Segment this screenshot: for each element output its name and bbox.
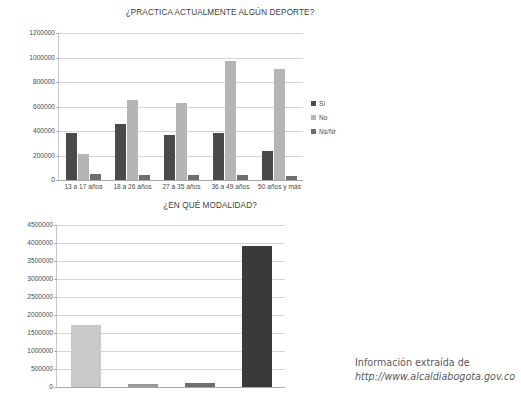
bar [115,124,126,180]
plot-area-practica-deporte: 0200000400000600000800000100000012000001… [58,33,303,180]
legend-practica-deporte: SíNoNs/Nr [311,96,336,138]
y-tick-mark [56,82,59,83]
bar [127,100,138,180]
y-axis-tick-label: 1000000 [27,348,53,355]
gridline [59,33,303,34]
legend-item-label: Ns/Nr [319,128,336,135]
chart-modalidad: ¿EN QUÉ MODALIDAD? 050000010000001500000… [0,198,400,404]
legend-item-label: Sí [319,100,325,107]
y-axis-tick-label: 3000000 [27,276,53,283]
y-tick-mark [54,297,57,298]
gridline [57,243,285,244]
y-tick-mark [56,156,59,157]
legend-item[interactable]: Ns/Nr [311,124,336,138]
gridline [59,58,303,59]
bar [90,174,101,180]
attribution-source-url: http://www.alcaldiabogota.gov.co [355,370,515,384]
y-tick-mark [54,243,57,244]
attribution-line-1: Información extraída de [355,356,515,370]
y-tick-mark [56,58,59,59]
y-axis-tick-label: 2000000 [27,312,53,319]
y-axis-tick-label: 4000000 [27,240,53,247]
bar [237,175,248,180]
bar [71,325,101,387]
y-axis-tick-label: 1200000 [29,30,55,37]
y-tick-mark [54,279,57,280]
bar [274,69,285,180]
y-axis-tick-label: 2500000 [27,294,53,301]
y-axis-tick-label: 400000 [33,128,55,135]
y-axis-tick-label: 500000 [31,366,53,373]
y-axis-tick-label: 1000000 [29,54,55,61]
bar [262,151,273,180]
y-tick-mark [54,333,57,334]
y-tick-mark [56,180,59,181]
y-tick-mark [56,33,59,34]
y-tick-mark [54,387,57,388]
bar [242,246,272,387]
y-tick-mark [54,351,57,352]
gridline [57,225,285,226]
bar [78,154,89,180]
chart-practica-deporte: ¿PRACTICA ACTUALMENTE ALGÚN DEPORTE? 020… [0,4,400,200]
x-axis-category-label: 36 a 49 años [206,184,255,191]
bar [164,135,175,180]
attribution-note: Información extraída de http://www.alcal… [355,356,515,384]
axis-baseline [59,180,303,181]
legend-item[interactable]: No [311,110,336,124]
bar [185,383,215,387]
legend-item[interactable]: Sí [311,96,336,110]
legend-swatch-icon [311,115,316,120]
bar [286,176,297,180]
y-axis-tick-label: 800000 [33,79,55,86]
x-axis-category-label: 18 a 26 años [108,184,157,191]
gridline [59,82,303,83]
y-tick-mark [54,315,57,316]
y-axis-tick-label: 1500000 [27,330,53,337]
y-axis-tick-label: 4500000 [27,222,53,229]
y-axis-tick-label: 0 [49,384,53,391]
axis-baseline [57,387,285,388]
legend-swatch-icon [311,129,316,134]
y-tick-mark [56,131,59,132]
y-tick-mark [54,369,57,370]
y-axis-tick-label: 3500000 [27,258,53,265]
bar [128,384,158,387]
bar [66,133,77,180]
legend-item-label: No [319,114,327,121]
x-axis-category-label: 13 a 17 años [59,184,108,191]
bar [213,133,224,180]
x-axis-category-label: 50 años y más [255,184,304,191]
legend-swatch-icon [311,101,316,106]
y-tick-mark [54,261,57,262]
y-tick-mark [54,225,57,226]
bar [176,103,187,180]
y-axis-tick-label: 600000 [33,103,55,110]
bar [139,175,150,181]
bar [225,61,236,180]
bar [188,175,199,180]
y-tick-mark [56,107,59,108]
y-axis-tick-label: 0 [51,177,55,184]
x-axis-category-label: 27 a 35 años [157,184,206,191]
chart-title-modalidad: ¿EN QUÉ MODALIDAD? [0,198,400,210]
y-axis-tick-label: 200000 [33,152,55,159]
plot-area-modalidad: 0500000100000015000002000000250000030000… [56,225,285,387]
chart-title-practica-deporte: ¿PRACTICA ACTUALMENTE ALGÚN DEPORTE? [0,4,400,17]
